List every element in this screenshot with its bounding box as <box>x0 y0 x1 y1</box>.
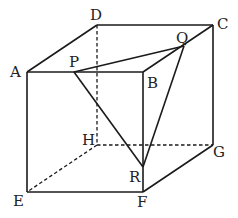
label-D: D <box>90 6 102 24</box>
edge-FG <box>143 145 213 192</box>
label-F: F <box>137 193 147 211</box>
edge-HE-hidden <box>27 145 97 192</box>
label-A: A <box>9 63 21 81</box>
label-E: E <box>13 192 24 210</box>
label-H: H <box>82 131 95 149</box>
cube-diagram: A D C B P Q H G R E F <box>0 0 238 218</box>
label-Q: Q <box>176 29 188 47</box>
label-C: C <box>217 15 228 33</box>
label-P: P <box>69 53 79 71</box>
edge-AD <box>27 25 97 72</box>
label-B: B <box>147 74 158 92</box>
segment-PQ <box>74 46 184 72</box>
label-G: G <box>213 143 225 161</box>
segment-QR <box>143 46 184 167</box>
label-R: R <box>129 168 141 186</box>
